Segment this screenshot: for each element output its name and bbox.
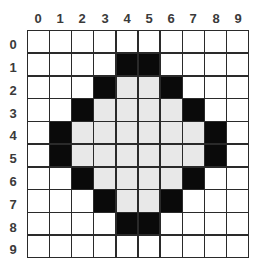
- grid-cell-r4-c2: [72, 122, 93, 143]
- row-label: 2: [6, 84, 20, 97]
- grid-cell-r2-c2: [72, 77, 93, 98]
- grid-cell-r7-c4: [117, 190, 138, 211]
- grid-cell-r4-c5: [139, 122, 160, 143]
- grid-cell-r0-c0: [28, 31, 49, 52]
- column-label: 6: [160, 12, 182, 25]
- grid-cell-r9-c8: [205, 236, 226, 257]
- grid-cell-r9-c0: [28, 236, 49, 257]
- grid-cell-r2-c0: [28, 77, 49, 98]
- grid-cell-r0-c9: [227, 31, 248, 52]
- grid-cell-r8-c2: [72, 213, 93, 234]
- grid-cell-r6-c3: [94, 168, 115, 189]
- column-label: 3: [94, 12, 116, 25]
- grid-cell-r7-c7: [183, 190, 204, 211]
- grid-cell-r8-c7: [183, 213, 204, 234]
- grid-cell-r2-c3: [94, 77, 115, 98]
- grid-cell-r5-c1: [50, 145, 71, 166]
- row-label: 7: [6, 198, 20, 211]
- grid-cell-r3-c5: [139, 99, 160, 120]
- grid-cell-r1-c7: [183, 54, 204, 75]
- grid-cell-r9-c4: [117, 236, 138, 257]
- grid-cell-r3-c3: [94, 99, 115, 120]
- column-label: 0: [27, 12, 49, 25]
- grid-cell-r5-c5: [139, 145, 160, 166]
- grid-cell-r5-c7: [183, 145, 204, 166]
- grid-cell-r7-c0: [28, 190, 49, 211]
- grid-cell-r5-c6: [161, 145, 182, 166]
- grid-cell-r4-c9: [227, 122, 248, 143]
- grid-cell-r4-c6: [161, 122, 182, 143]
- grid-cell-r7-c6: [161, 190, 182, 211]
- grid-cell-r4-c1: [50, 122, 71, 143]
- grid-cell-r7-c3: [94, 190, 115, 211]
- grid-cell-r3-c7: [183, 99, 204, 120]
- grid-cell-r6-c1: [50, 168, 71, 189]
- grid-cell-r1-c9: [227, 54, 248, 75]
- grid-cell-r1-c1: [50, 54, 71, 75]
- grid-cell-r6-c6: [161, 168, 182, 189]
- row-label: 1: [6, 61, 20, 74]
- grid-cell-r9-c5: [139, 236, 160, 257]
- grid-cell-r5-c4: [117, 145, 138, 166]
- grid-cell-r2-c1: [50, 77, 71, 98]
- column-label: 9: [227, 12, 249, 25]
- grid-cell-r4-c3: [94, 122, 115, 143]
- grid-cell-r9-c7: [183, 236, 204, 257]
- grid-cell-r5-c9: [227, 145, 248, 166]
- grid-cell-r2-c4: [117, 77, 138, 98]
- grid-cell-r3-c6: [161, 99, 182, 120]
- column-label: 2: [71, 12, 93, 25]
- grid-cell-r5-c3: [94, 145, 115, 166]
- grid-cell-r1-c2: [72, 54, 93, 75]
- grid-cell-r7-c9: [227, 190, 248, 211]
- grid-cell-r9-c6: [161, 236, 182, 257]
- grid-cell-r6-c5: [139, 168, 160, 189]
- grid-cell-r0-c2: [72, 31, 93, 52]
- grid-cell-r3-c4: [117, 99, 138, 120]
- grid-cell-r8-c0: [28, 213, 49, 234]
- grid-cell-r8-c6: [161, 213, 182, 234]
- grid-cell-r7-c1: [50, 190, 71, 211]
- grid-cell-r3-c1: [50, 99, 71, 120]
- grid-cell-r7-c8: [205, 190, 226, 211]
- grid-cell-r6-c4: [117, 168, 138, 189]
- grid-cell-r1-c8: [205, 54, 226, 75]
- column-label: 8: [205, 12, 227, 25]
- grid-cell-r4-c4: [117, 122, 138, 143]
- grid-cell-r9-c3: [94, 236, 115, 257]
- grid-cell-r4-c8: [205, 122, 226, 143]
- row-label: 6: [6, 175, 20, 188]
- row-label: 0: [6, 38, 20, 51]
- grid-cell-r8-c1: [50, 213, 71, 234]
- grid-cell-r3-c0: [28, 99, 49, 120]
- grid-cell-r2-c5: [139, 77, 160, 98]
- grid-cell-r1-c0: [28, 54, 49, 75]
- grid-cell-r0-c6: [161, 31, 182, 52]
- row-label: 9: [6, 243, 20, 256]
- grid-cell-r7-c5: [139, 190, 160, 211]
- grid-cell-r0-c3: [94, 31, 115, 52]
- grid-cell-r9-c9: [227, 236, 248, 257]
- column-label: 5: [138, 12, 160, 25]
- column-label: 4: [116, 12, 138, 25]
- column-label: 7: [182, 12, 204, 25]
- grid-cell-r2-c8: [205, 77, 226, 98]
- grid-cell-r1-c5: [139, 54, 160, 75]
- row-label: 8: [6, 221, 20, 234]
- grid-cell-r5-c2: [72, 145, 93, 166]
- grid-cell-r6-c8: [205, 168, 226, 189]
- row-label: 5: [6, 152, 20, 165]
- grid-cell-r3-c8: [205, 99, 226, 120]
- grid-cell-r1-c3: [94, 54, 115, 75]
- grid-cell-r2-c9: [227, 77, 248, 98]
- grid-cell-r8-c5: [139, 213, 160, 234]
- grid-cell-r8-c4: [117, 213, 138, 234]
- grid-cell-r6-c9: [227, 168, 248, 189]
- grid-cell-r8-c8: [205, 213, 226, 234]
- grid-cell-r6-c0: [28, 168, 49, 189]
- grid-cell-r5-c0: [28, 145, 49, 166]
- grid-cell-r0-c7: [183, 31, 204, 52]
- grid-cell-r0-c8: [205, 31, 226, 52]
- grid-cell-r0-c4: [117, 31, 138, 52]
- grid-cell-r2-c7: [183, 77, 204, 98]
